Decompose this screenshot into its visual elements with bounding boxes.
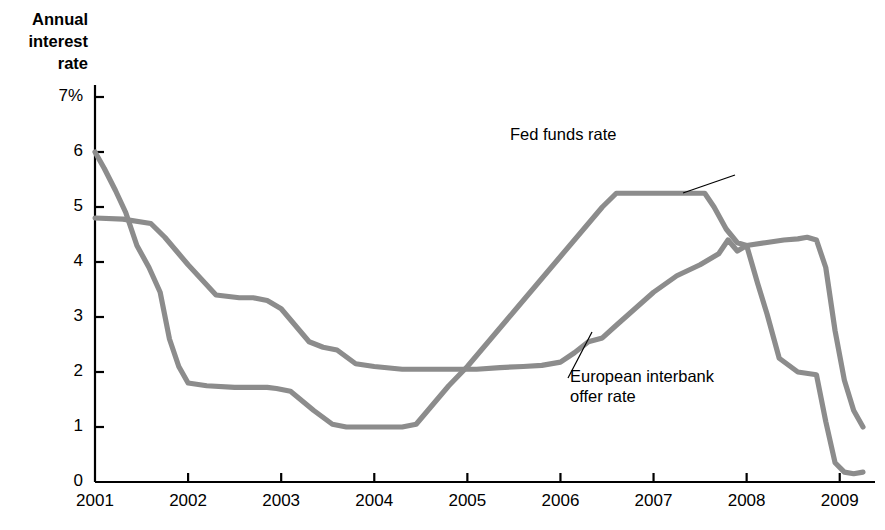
- x-tick-label-2001: 2001: [65, 491, 125, 511]
- chart-plot-area: [0, 0, 885, 530]
- x-tick-label-2004: 2004: [344, 491, 404, 511]
- series-line-fed-funds-rate: [95, 152, 863, 474]
- interest-rate-chart: Annual interest rate 01234567% 200120022…: [0, 0, 885, 530]
- chart-series: [95, 152, 863, 474]
- y-tick-label-3: 3: [43, 306, 83, 326]
- y-tick-label-1: 1: [43, 416, 83, 436]
- x-tick-label-2003: 2003: [251, 491, 311, 511]
- x-tick-label-2007: 2007: [624, 491, 684, 511]
- leader-line-fed-funds-rate: [683, 175, 735, 193]
- x-tick-label-2009: 2009: [810, 491, 870, 511]
- y-tick-label-4: 4: [43, 251, 83, 271]
- y-tick-label-2: 2: [43, 361, 83, 381]
- x-tick-label-2008: 2008: [717, 491, 777, 511]
- y-tick-label-6: 6: [43, 141, 83, 161]
- annotation-fed-funds-rate: Fed funds rate: [510, 124, 616, 144]
- y-tick-label-5: 5: [43, 196, 83, 216]
- y-tick-label-0: 0: [43, 471, 83, 491]
- annotation-european-interbank-offer-rate: European interbank offer rate: [570, 366, 714, 406]
- x-tick-label-2006: 2006: [530, 491, 590, 511]
- x-tick-label-2002: 2002: [158, 491, 218, 511]
- y-tick-label-7: 7%: [43, 86, 83, 106]
- x-tick-label-2005: 2005: [437, 491, 497, 511]
